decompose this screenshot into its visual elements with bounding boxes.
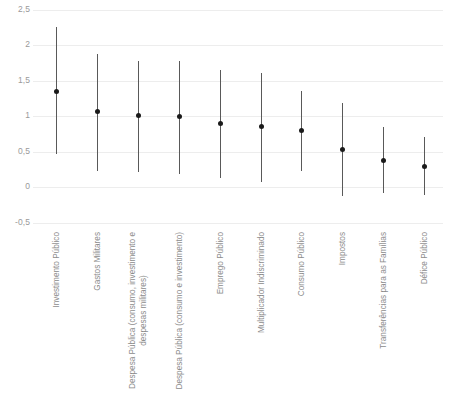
x-axis-label-line: Transferências para as Famílias xyxy=(378,232,389,349)
data-point xyxy=(422,164,427,169)
y-axis-tick: 1 xyxy=(0,116,30,117)
gridline xyxy=(33,187,443,188)
x-axis-label-line: Despesa Pública (consumo e investimento) xyxy=(173,232,184,389)
y-axis-tick: 0,5 xyxy=(0,152,30,153)
data-point xyxy=(299,128,304,133)
x-axis-label-line: Despesa Pública (consumo, investimento e xyxy=(127,232,138,389)
data-series-6 xyxy=(261,0,262,408)
y-axis-tick-label: 2,5 xyxy=(4,5,30,14)
x-axis-label-line: Impostos xyxy=(337,232,348,265)
data-point xyxy=(54,89,59,94)
chart-container: 2,521,510,50-0,5Investimento PúblicoGast… xyxy=(0,0,455,408)
y-axis-tick: 1,5 xyxy=(0,81,30,82)
y-axis-tick-label: 2 xyxy=(4,40,30,49)
x-axis-label-line: Gastos Militares xyxy=(91,232,102,291)
gridline xyxy=(33,81,443,82)
x-axis-label-line: Multiplicador Indiscriminado xyxy=(255,232,266,333)
gridline xyxy=(33,116,443,117)
data-series-5 xyxy=(220,0,221,408)
gridline xyxy=(33,152,443,153)
y-axis-tick: 0 xyxy=(0,187,30,188)
y-axis-tick-label: 0,5 xyxy=(4,147,30,156)
x-axis-label-line: Défice Público xyxy=(419,232,430,284)
gridline xyxy=(33,223,443,224)
data-series-1 xyxy=(56,0,57,408)
y-axis-tick-label: 0 xyxy=(4,182,30,191)
data-series-8 xyxy=(342,0,343,408)
data-point xyxy=(136,113,141,118)
data-point xyxy=(218,121,223,126)
x-axis-label-line: Consumo Público xyxy=(296,232,307,296)
x-axis-label-line: Emprego Público xyxy=(214,232,225,294)
plot-area: 2,521,510,50-0,5Investimento PúblicoGast… xyxy=(0,0,455,408)
gridline xyxy=(33,10,443,11)
y-axis-tick-label: -0,5 xyxy=(4,218,30,227)
y-axis-tick-label: 1,5 xyxy=(4,76,30,85)
data-point xyxy=(259,124,264,129)
data-series-10 xyxy=(424,0,425,408)
data-point xyxy=(177,114,182,119)
y-axis-tick: 2 xyxy=(0,45,30,46)
data-point xyxy=(381,158,386,163)
data-series-7 xyxy=(301,0,302,408)
data-series-2 xyxy=(97,0,98,408)
y-axis-tick: -0,5 xyxy=(0,223,30,224)
y-axis-tick-label: 1 xyxy=(4,111,30,120)
gridline xyxy=(33,45,443,46)
y-axis-tick: 2,5 xyxy=(0,10,30,11)
x-axis-label-line: despesas militares) xyxy=(138,232,149,389)
data-point xyxy=(95,109,100,114)
x-axis-label-line: Investimento Público xyxy=(51,232,62,308)
